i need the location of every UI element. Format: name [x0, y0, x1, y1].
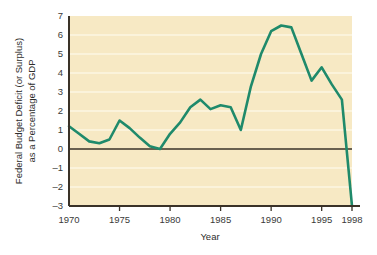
x-tick-label: 1995: [311, 214, 332, 225]
y-tick-label: 1: [58, 124, 63, 135]
y-tick-label: –2: [52, 181, 63, 192]
y-axis-title-line-1: Federal Budget Deficit (or Surplus): [13, 38, 24, 184]
chart-figure: 76543210–1–2–3 1970197519801985199019951…: [0, 0, 377, 255]
y-axis-title-line-2: as a Percentage of GDP: [26, 60, 37, 163]
y-tick-label: 6: [58, 29, 63, 40]
y-tick-label: 3: [58, 86, 63, 97]
x-axis-title: Year: [200, 231, 219, 242]
y-axis-tick-labels: 76543210–1–2–3: [52, 10, 63, 211]
y-tick-label: –1: [52, 162, 63, 173]
y-tick-label: 2: [58, 105, 63, 116]
x-tick-label: 1975: [109, 214, 130, 225]
y-tick-label: 5: [58, 48, 63, 59]
y-tick-label: –3: [52, 200, 63, 211]
x-tick-label: 1990: [261, 214, 282, 225]
y-tick-label: 0: [58, 143, 63, 154]
y-tick-label: 4: [58, 67, 63, 78]
x-tick-label: 1998: [341, 214, 362, 225]
budget-deficit-line-chart: 76543210–1–2–3 1970197519801985199019951…: [0, 0, 377, 255]
x-tick-label: 1985: [210, 214, 231, 225]
x-axis-tick-labels: 1970197519801985199019951998: [58, 214, 362, 225]
y-tick-label: 7: [58, 10, 63, 21]
x-tick-label: 1970: [58, 214, 79, 225]
x-tick-label: 1980: [160, 214, 181, 225]
